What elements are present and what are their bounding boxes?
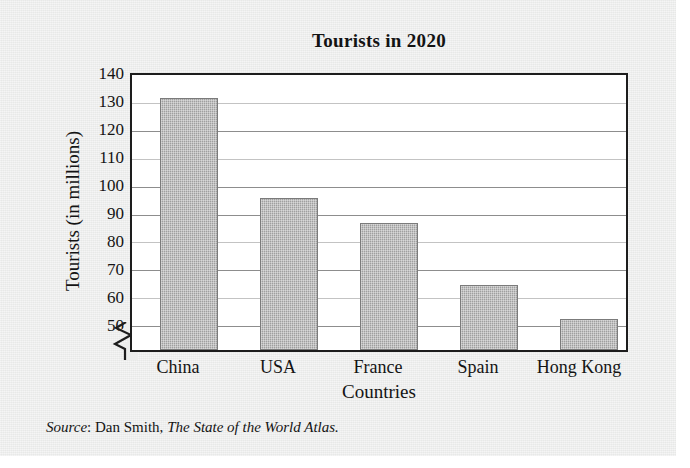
source-work-title: The State of the World Atlas. <box>167 419 339 435</box>
bar-usa <box>260 198 318 350</box>
y-tick-100: 100 <box>78 177 124 194</box>
x-tick-hong-kong: Hong Kong <box>515 357 643 378</box>
y-tick-110: 110 <box>78 149 124 166</box>
plot-area <box>130 73 628 352</box>
source-note: Source: Dan Smith, The State of the Worl… <box>46 419 339 436</box>
bar-france <box>360 223 418 350</box>
y-axis-tick-labels: 140 130 120 110 100 90 80 70 60 50 <box>72 0 124 468</box>
source-label: Source <box>46 419 87 435</box>
y-tick-70: 70 <box>78 261 124 278</box>
chart-title: Tourists in 2020 <box>130 30 628 52</box>
y-tick-130: 130 <box>78 93 124 110</box>
x-axis-title: Countries <box>130 381 628 403</box>
y-tick-90: 90 <box>78 205 124 222</box>
source-author: Dan Smith, <box>95 419 167 435</box>
chart-page: Tourists in 2020 Tourists (in millions) … <box>0 0 690 468</box>
y-tick-80: 80 <box>78 233 124 250</box>
y-tick-120: 120 <box>78 121 124 138</box>
y-tick-60: 60 <box>78 289 124 306</box>
bar-hong-kong <box>560 319 618 350</box>
source-separator: : <box>87 419 95 435</box>
bar-spain <box>460 285 518 350</box>
y-tick-140: 140 <box>78 65 124 82</box>
bar-china <box>160 98 218 350</box>
